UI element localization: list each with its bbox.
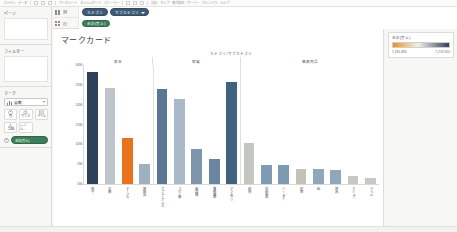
bar-slot [362,65,379,184]
mark-type-dropdown[interactable]: 自動 ▾ [4,98,48,106]
x-axis-label[interactable]: アプライアンス [160,187,164,207]
pages-shelf-dropzone[interactable] [4,18,48,40]
save-icon[interactable] [34,1,38,5]
color-legend-min: 1,181,894 [392,50,407,54]
bar[interactable] [105,88,116,184]
bar-chart-icon [7,100,12,105]
x-axis-label[interactable]: アクセサリ [229,187,233,201]
toolbar-separator [147,1,148,5]
pill-subcategory[interactable]: サブカテゴリ [110,8,149,16]
bar[interactable] [313,169,324,184]
color-legend-card[interactable]: 合計(売上) 1,181,894 7,219,320 [388,32,454,58]
x-axis-label[interactable]: 紙 [316,187,320,190]
x-axis-label-cell: 収納用品 [257,186,274,218]
color-legend-gradient[interactable] [392,42,450,48]
bar[interactable] [365,178,376,184]
bar[interactable] [261,165,272,184]
menu-item-file[interactable]: ファイル [3,0,15,7]
bar-slot [136,65,153,184]
x-axis-label[interactable]: クリップ [351,187,355,198]
y-axis-tick-mark [82,125,84,126]
bar[interactable] [244,143,255,184]
x-axis-label-cell: 器具 [327,186,344,218]
bar[interactable] [348,176,359,184]
rows-shelf-dropzone[interactable]: 合計(売上) [78,18,457,29]
group-divider [153,65,154,184]
filters-shelf-dropzone[interactable] [4,56,48,82]
x-axis-label[interactable]: バインダー [281,187,285,201]
columns-shelf-dropzone[interactable]: カテゴリ サブカテゴリ [78,7,457,18]
color-legend-max: 7,219,320 [435,50,450,54]
marks-color-button[interactable]: 色 [4,109,17,120]
x-axis-label[interactable]: 椅子 [90,187,94,193]
x-axis-label[interactable]: 画材 [247,187,251,193]
y-axis-tick-mark [82,85,84,86]
x-axis-label[interactable]: ラベル [368,187,372,195]
marks-color-pill[interactable]: 合計(売上) [11,136,48,144]
bar[interactable] [139,164,150,184]
x-axis-label-cell: 椅子 [83,186,100,218]
redo-icon[interactable] [48,1,52,5]
status-bar [0,226,457,232]
pill-sum-sales[interactable]: 合計(売上) [82,20,110,28]
y-axis-tick-label: 20M [75,103,82,107]
marks-size-label: サイズ [21,115,30,119]
grid-icon [55,21,60,26]
pill-category[interactable]: カテゴリ [82,8,108,16]
bar[interactable] [122,138,133,184]
bar-slot [171,65,188,184]
bar[interactable] [226,82,237,184]
x-axis-label[interactable]: 収納用品 [264,187,268,198]
bar[interactable] [174,99,185,184]
x-axis-label[interactable]: 電話機 [194,187,198,195]
bar-slot [84,65,101,184]
bar[interactable] [157,89,168,184]
bar[interactable] [87,72,98,184]
size-icon [23,110,28,115]
marks-tooltip-button[interactable]: ツール... [19,122,32,133]
x-axis-label-cell: 画材 [240,186,257,218]
x-axis-label[interactable]: 封筒 [299,187,303,193]
undo-icon[interactable] [41,1,45,5]
left-panel: ページ フィルター マーク 自動 ▾ 色 [0,7,52,232]
x-axis-label[interactable]: 事務機器 [212,187,216,198]
y-axis-tick-mark [82,144,84,145]
sort-ascending-icon[interactable] [126,1,130,5]
grid-icon [55,10,60,15]
marks-label-button[interactable]: ラベル [35,109,48,120]
menu-item-worksheet[interactable]: ワークシート [59,0,77,7]
bar[interactable] [278,165,289,184]
toolbar-separator [122,1,123,5]
x-axis-label[interactable]: 本棚 [107,187,111,193]
highlight-icon[interactable] [140,1,144,5]
bar[interactable] [330,170,341,184]
bar[interactable] [296,169,307,184]
category-group-header: 家電 [153,57,240,65]
menu-item-data[interactable]: データ [18,0,27,7]
x-axis-label[interactable]: コピー機 [177,187,181,198]
x-axis-label[interactable]: 器具 [334,187,338,193]
marks-label-label: ラベル [37,115,46,119]
y-axis-tick-mark [82,164,84,165]
mark-type-value: 自動 [14,100,41,105]
marks-detail-button[interactable]: 詳細 [4,122,17,133]
x-axis-label[interactable]: テーブル [125,187,129,198]
color-legend-range: 1,181,894 7,219,320 [392,50,450,54]
bar-slot [206,65,223,184]
x-axis-label-cell: コピー機 [170,186,187,218]
shelves-area: 列 カテゴリ サブカテゴリ 行 合計(売上) [53,7,457,29]
category-group-headers: 家具家電事務用品 [83,57,379,65]
pages-card-title: ページ [0,7,51,18]
toolbar-separator [55,1,56,5]
marks-size-button[interactable]: サイズ [19,109,32,120]
sort-descending-icon[interactable] [133,1,137,5]
bar-slot [292,65,309,184]
x-axis-label-cell: 紙 [309,186,326,218]
bar[interactable] [209,159,220,184]
filters-card-title: フィルター [0,45,51,56]
bar-slot [310,65,327,184]
bar[interactable] [191,149,202,184]
x-axis-label[interactable]: 装飾品 [142,187,146,195]
x-axis-label-cell: テーブル [118,186,135,218]
color-legend-title: 合計(売上) [392,35,450,40]
